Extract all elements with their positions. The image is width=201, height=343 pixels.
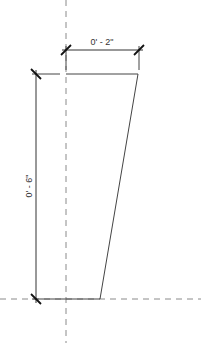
width-dimension-label: 0' - 2" [91, 37, 114, 47]
drawing-canvas: 0' - 2" 0' - 6" [0, 0, 201, 343]
tapered-profile-outline[interactable] [66, 74, 138, 299]
left-height-dimension[interactable]: 0' - 6" [24, 69, 66, 304]
top-width-dimension[interactable]: 0' - 2" [61, 37, 144, 70]
height-dimension-label: 0' - 6" [24, 175, 34, 198]
